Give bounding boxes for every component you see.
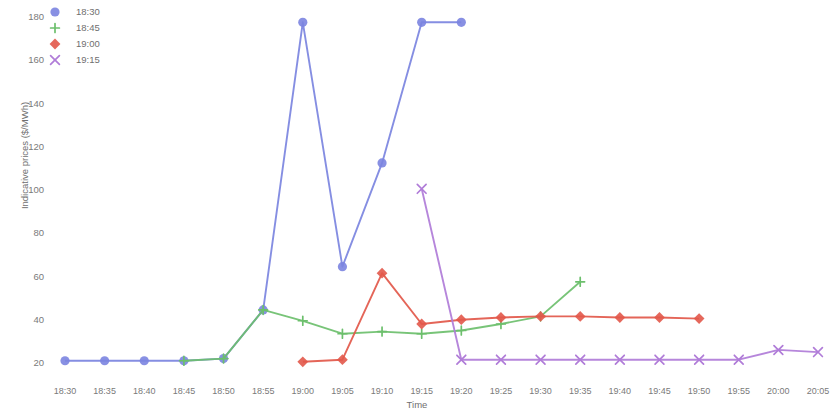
series-19-00 [297,268,704,367]
legend-item-label: 19:15 [76,52,100,68]
data-point-plus-marker [457,326,466,335]
series-line [184,282,580,361]
series-19-15 [417,184,822,364]
line-chart: Indicative prices ($/MWh) 20406080100120… [0,0,834,416]
data-point-plus-marker [51,24,60,33]
data-point-circle-marker [298,18,307,27]
data-point-diamond-marker [456,314,467,325]
legend-x-icon [44,52,66,68]
series-line [422,189,818,360]
data-point-diamond-marker [297,356,308,367]
data-point-circle-marker [417,18,426,27]
series-18-45 [179,277,584,365]
data-point-diamond-marker [337,354,348,365]
legend-item-label: 18:45 [76,20,100,36]
data-point-diamond-marker [496,312,507,323]
data-point-diamond-marker [50,39,61,50]
legend-diamond-icon [44,36,66,52]
legend-item[interactable]: 18:45 [44,20,164,36]
data-point-circle-marker [338,262,347,271]
legend-plus-icon [44,20,66,36]
data-point-plus-marker [338,329,347,338]
legend-circle-icon [44,4,66,20]
chart-legend: 18:3018:4519:0019:15 [44,4,164,68]
data-point-diamond-marker [575,311,586,322]
legend-item[interactable]: 19:00 [44,36,164,52]
data-point-diamond-marker [614,312,625,323]
data-point-plus-marker [417,329,426,338]
data-point-diamond-marker [654,312,665,323]
data-point-circle-marker [60,356,69,365]
data-point-circle-marker [457,18,466,27]
data-point-circle-marker [100,356,109,365]
legend-item[interactable]: 19:15 [44,52,164,68]
data-point-circle-marker [377,158,386,167]
data-point-circle-marker [140,356,149,365]
data-point-x-marker [51,56,60,65]
data-point-plus-marker [298,316,307,325]
legend-item-label: 19:00 [76,36,100,52]
legend-item-label: 18:30 [76,4,100,20]
data-point-diamond-marker [694,313,705,324]
data-point-plus-marker [378,327,387,336]
legend-item[interactable]: 18:30 [44,4,164,20]
data-point-circle-marker [50,7,59,16]
